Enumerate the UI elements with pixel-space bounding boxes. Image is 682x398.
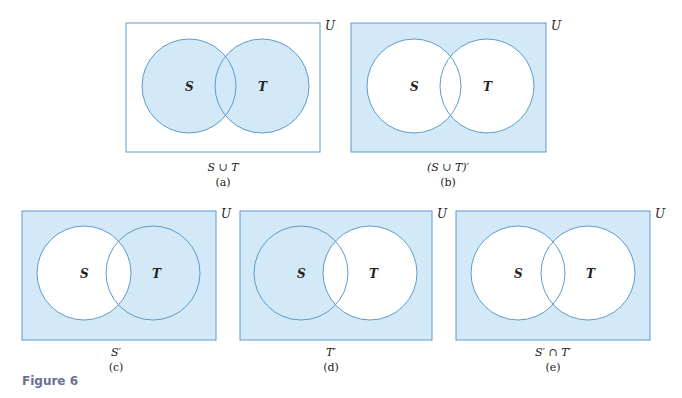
universe-label: U xyxy=(221,207,232,221)
panel-expression: (S ∪ T)′ xyxy=(427,161,470,174)
figure-caption: Figure 6 xyxy=(22,374,78,388)
panel-a: S T U S ∪ T (a) xyxy=(126,19,336,189)
set-t-label: T xyxy=(258,80,268,94)
set-t-label: T xyxy=(369,267,379,281)
set-t-label: T xyxy=(586,267,596,281)
set-s-label: S xyxy=(297,267,306,281)
universe-label: U xyxy=(551,19,562,33)
panel-b: S T U (S ∪ T)′ (b) xyxy=(351,19,562,189)
panel-c: S T U S′ (c) xyxy=(22,207,232,374)
panel-e: S T U S′ ∩ T′ (e) xyxy=(456,207,666,374)
venn-diagram-figure: S T U S ∪ T (a) S T U (S ∪ T)′ (b) S T U… xyxy=(0,0,682,398)
universe-label: U xyxy=(325,19,336,33)
set-t-label: T xyxy=(152,267,162,281)
panel-d: S T U T′ (d) xyxy=(240,207,448,374)
set-s-label: S xyxy=(80,267,89,281)
panel-sublabel: (c) xyxy=(109,361,124,374)
panel-expression: S′ xyxy=(111,346,122,359)
panel-expression: S ∪ T xyxy=(207,161,240,174)
panel-sublabel: (a) xyxy=(215,176,230,189)
panel-expression: S′ ∩ T′ xyxy=(535,346,572,359)
panel-sublabel: (b) xyxy=(440,176,456,189)
universe-label: U xyxy=(655,207,666,221)
panel-sublabel: (e) xyxy=(545,361,560,374)
set-s-label: S xyxy=(514,267,523,281)
panel-sublabel: (d) xyxy=(323,361,339,374)
set-t-label: T xyxy=(483,80,493,94)
set-s-label: S xyxy=(185,80,194,94)
panel-expression: T′ xyxy=(326,346,336,359)
set-s-label: S xyxy=(410,80,419,94)
universe-label: U xyxy=(437,207,448,221)
